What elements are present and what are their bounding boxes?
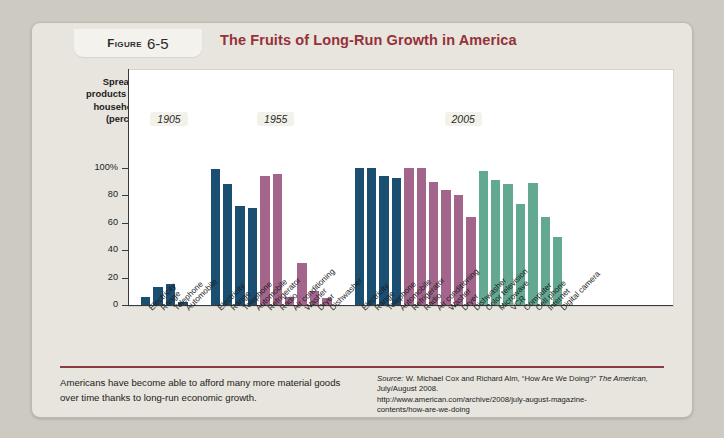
- bar-1955-range: [223, 184, 232, 305]
- bar-2005-range: [367, 168, 376, 305]
- y-tick-label-0: 0: [66, 299, 118, 309]
- footer-divider: [60, 366, 664, 368]
- y-tick-60: [122, 223, 128, 224]
- source-publication: The American,: [598, 374, 648, 383]
- source-text-1: W. Michael Cox and Richard Alm, “How Are…: [404, 374, 599, 383]
- figure-card: Figure 6-5 The Fruits of Long-Run Growth…: [31, 22, 693, 418]
- source-url-line2[interactable]: contents/how-are-we-doing: [377, 405, 470, 414]
- y-tick-label-100: 100%: [66, 162, 118, 172]
- y-tick-label-20: 20: [66, 272, 118, 282]
- bar-2005-cell-phone: [528, 183, 537, 305]
- figure-number: 6-5: [147, 35, 169, 52]
- y-tick-label-60: 60: [66, 217, 118, 227]
- y-tick-80: [122, 195, 128, 196]
- y-tick-0: [122, 305, 128, 306]
- bar-2005-automobile: [392, 178, 401, 305]
- source-text-2: July/August 2008.: [377, 384, 438, 393]
- bar-2005-washer: [441, 190, 450, 305]
- source-label: Source:: [377, 374, 404, 383]
- figure-label: Figure: [107, 37, 142, 49]
- y-tick-100: [122, 168, 128, 169]
- bar-2005-color-television: [479, 171, 488, 305]
- source-url-line1[interactable]: http://www.american.com/archive/2008/jul…: [377, 395, 587, 404]
- figure-title: The Fruits of Long-Run Growth in America: [220, 32, 517, 48]
- y-tick-40: [122, 250, 128, 251]
- y-tick-20: [122, 278, 128, 279]
- figure-caption: Americans have become able to afford man…: [60, 375, 350, 405]
- y-tick-label-40: 40: [66, 244, 118, 254]
- figure-header: Figure 6-5 The Fruits of Long-Run Growth…: [32, 29, 692, 63]
- page-background: Figure 6-5 The Fruits of Long-Run Growth…: [0, 0, 724, 438]
- bar-series: [129, 69, 672, 305]
- figure-source: Source: W. Michael Cox and Richard Alm, …: [377, 374, 657, 416]
- figure-number-tab: Figure 6-5: [74, 29, 202, 57]
- y-tick-label-80: 80: [66, 189, 118, 199]
